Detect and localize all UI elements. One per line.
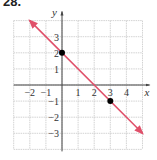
x-tick-label: −2 [24,87,35,98]
x-axis-label: x [144,86,150,98]
data-point [107,98,113,104]
y-tick-label: −1 [48,96,59,107]
x-tick-label: 3 [108,87,113,98]
y-axis-label: y [51,6,57,18]
data-point [59,50,65,56]
graph-line [30,21,143,134]
x-tick-label: 4 [124,87,129,98]
x-tick-label: 2 [92,87,97,98]
y-tick-label: 1 [54,64,59,75]
y-tick-label: −3 [48,128,59,139]
y-tick-label: −2 [48,112,59,123]
x-tick-label: 1 [76,87,81,98]
y-tick-label: 3 [54,32,59,43]
graph: xy−2−11234321−1−2−3 [0,0,157,160]
